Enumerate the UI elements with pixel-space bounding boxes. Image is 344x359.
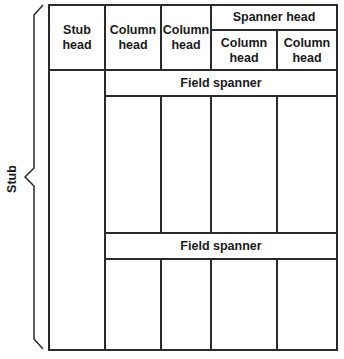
field-spanner-1-label: Field spanner: [105, 70, 337, 96]
spanner-head-label: Spanner head: [211, 5, 337, 30]
spanner-column-head-1-label: Column head: [211, 31, 277, 71]
col-divider-2-body-2: [210, 259, 212, 350]
column-head-2-label: Column head: [161, 5, 211, 70]
col-divider-1-body-1: [160, 96, 162, 233]
table-border-bottom: [48, 349, 338, 351]
column-head-1-label: Column head: [105, 5, 161, 70]
spanner-column-head-2-label: Column head: [277, 31, 337, 71]
col-divider-2-body-1: [210, 96, 212, 233]
col-divider-3-body-2: [276, 259, 278, 350]
field-spanner-2-label: Field spanner: [105, 233, 337, 259]
stub-label: Stub: [3, 161, 21, 197]
col-divider-1-body-2: [160, 259, 162, 350]
col-divider-3-body-1: [276, 96, 278, 233]
stub-head-label: Stub head: [49, 5, 105, 70]
